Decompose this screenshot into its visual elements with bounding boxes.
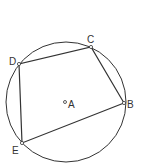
- label-e: E: [12, 145, 19, 156]
- label-b: B: [127, 99, 134, 110]
- point-a: [64, 101, 67, 104]
- label-a: A: [68, 99, 75, 110]
- geometry-diagram: A B C D E: [0, 0, 141, 166]
- point-b: [122, 101, 125, 104]
- point-e: [20, 141, 23, 144]
- quadrilateral-bcde: [19, 47, 124, 143]
- point-c: [89, 45, 92, 48]
- label-c: C: [87, 34, 94, 45]
- point-d: [17, 62, 20, 65]
- label-d: D: [9, 56, 16, 67]
